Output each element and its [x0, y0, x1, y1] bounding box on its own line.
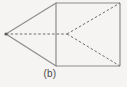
rectangle-outline [56, 3, 120, 66]
node-to-top-right-dashed-line [67, 3, 120, 34]
dashed-construction-lines [6, 3, 120, 66]
apex-to-top-left-edge [6, 3, 56, 34]
figure-container: (b) [0, 0, 127, 87]
figure-caption: (b) [0, 68, 100, 80]
apex-vertex-dot [4, 32, 7, 35]
apex-to-bottom-left-edge [6, 34, 56, 66]
node-to-bottom-right-dashed-line [67, 34, 120, 66]
